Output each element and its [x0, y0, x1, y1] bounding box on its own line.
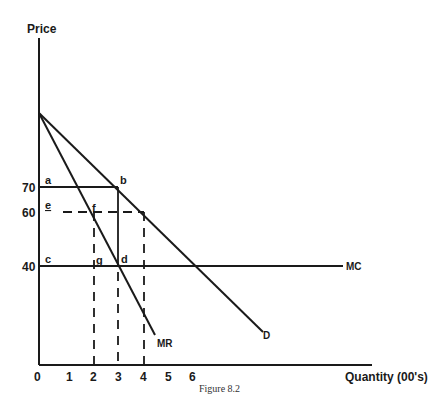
demand-curve [39, 113, 263, 332]
marginal-revenue-curve [39, 113, 155, 335]
x-tick-5: 5 [165, 370, 172, 384]
x-tick-1: 1 [66, 370, 73, 384]
point-e: e [45, 199, 51, 211]
y-tick-70: 70 [22, 181, 36, 195]
point-g: g [96, 254, 103, 266]
mc-label: MC [346, 261, 362, 272]
x-tick-3: 3 [115, 370, 122, 384]
monopoly-diagram: Price Quantity (00's) 70 60 40 0 1 2 3 4… [0, 0, 447, 416]
y-tick-40: 40 [22, 260, 36, 274]
point-b: b [120, 174, 127, 186]
d-label: D [263, 330, 270, 341]
x-tick-0: 0 [34, 370, 41, 384]
y-axis-label: Price [27, 22, 57, 36]
point-a: a [45, 174, 52, 186]
mr-label: MR [157, 338, 173, 349]
point-f: f [92, 202, 96, 214]
y-tick-60: 60 [22, 206, 36, 220]
x-axis-label: Quantity (00's) [345, 370, 428, 384]
x-tick-4: 4 [140, 370, 147, 384]
point-c: c [45, 253, 51, 265]
point-d: d [121, 253, 128, 265]
x-tick-2: 2 [90, 370, 97, 384]
x-tick-6: 6 [189, 370, 196, 384]
figure-caption: Figure 8.2 [199, 383, 240, 394]
